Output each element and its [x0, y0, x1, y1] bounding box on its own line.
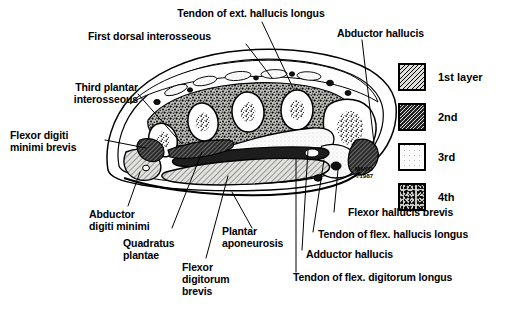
- label-plantar-aponeurosis: Plantar aponeurosis: [222, 226, 310, 250]
- legend-item-1st-layer: 1st layer: [398, 60, 510, 94]
- label-abductor-digiti-minimi: Abductor digiti minimi: [89, 209, 189, 233]
- leader-abductor-hallucis: [362, 40, 374, 143]
- leader-third-plantar-interosseous: [138, 94, 182, 144]
- mayo-credit-line2: ©1987: [355, 173, 373, 179]
- label-tendon-ext-hallucis-longus: Tendon of ext. hallucis longus: [153, 8, 349, 20]
- legend-label-4th-layer: 4th: [438, 191, 455, 203]
- layer-legend: 1st layer 2nd 3rd 4th: [398, 60, 510, 220]
- label-quadratus-plantae: Quadratus plantae: [123, 238, 213, 262]
- leader-tendon-ext-hallucis-longus: [262, 22, 293, 88]
- legend-label-3rd-layer: 3rd: [438, 151, 455, 163]
- mayo-copyright-mark: MAYO©1987: [355, 166, 373, 179]
- legend-swatch-3rd-layer: [398, 143, 426, 171]
- leader-plantar-aponeurosis: [232, 192, 252, 228]
- legend-label-1st-layer: 1st layer: [438, 71, 483, 83]
- label-flexor-digiti-minimi-brevis: Flexor digiti minimi brevis: [10, 130, 106, 154]
- legend-swatch-1st-layer: [398, 63, 426, 91]
- legend-swatch-4th-layer: [398, 183, 426, 211]
- legend-item-3rd-layer: 3rd: [398, 140, 510, 174]
- label-abductor-hallucis: Abductor hallucis: [337, 28, 447, 40]
- leader-abductor-digiti-minimi: [128, 172, 140, 206]
- leader-first-dorsal-interosseous: [246, 44, 272, 78]
- legend-item-2nd-layer: 2nd: [398, 100, 510, 134]
- leader-flexor-digiti-minimi-brevis: [105, 140, 146, 148]
- label-flexor-digitorum-brevis: Flexor digitorum brevis: [182, 262, 256, 297]
- legend-item-4th-layer: 4th: [398, 180, 510, 214]
- label-tendon-flex-hallucis-longus: Tendon of flex. hallucis longus: [318, 229, 510, 241]
- anatomical-figure: Tendon of ext. hallucis longus First dor…: [0, 0, 513, 316]
- label-third-plantar-interosseous: Third plantar interosseous: [46, 82, 138, 106]
- mayo-credit-line1: MAYO: [355, 166, 373, 172]
- label-tendon-flex-digitorum-longus: Tendon of flex. digitorum longus: [293, 272, 493, 284]
- leader-tendon-flex-hallucis-longus: [313, 160, 324, 232]
- leader-flexor-hallucis-brevis: [334, 170, 338, 212]
- legend-swatch-2nd-layer: [398, 103, 426, 131]
- label-adductor-hallucis: Adductor hallucis: [306, 249, 436, 261]
- label-first-dorsal-interosseous: First dorsal interosseous: [88, 31, 258, 43]
- legend-label-2nd-layer: 2nd: [438, 111, 458, 123]
